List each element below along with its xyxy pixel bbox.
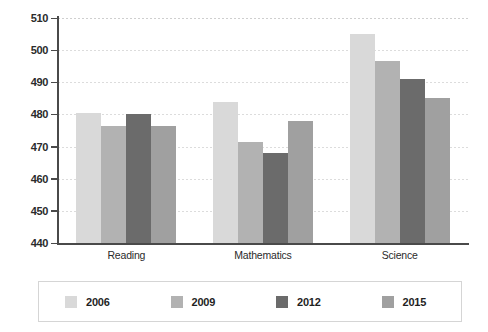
chart-root: 440450460470480490500510 ReadingMathemat…: [0, 0, 488, 332]
y-axis-tick-label: 460: [8, 173, 48, 185]
y-axis-tick-label: 480: [8, 108, 48, 120]
y-axis-tick-label: 470: [8, 141, 48, 153]
plot-area: [58, 18, 468, 243]
bar-mathematics-2015[interactable]: [288, 121, 313, 243]
x-axis-line: [57, 243, 469, 245]
y-axis-tick-label: 450: [8, 205, 48, 217]
bar-science-2015[interactable]: [425, 98, 450, 243]
legend-swatch-icon: [276, 296, 288, 308]
y-axis-tick-label: 510: [8, 12, 48, 24]
legend-swatch-icon: [65, 296, 77, 308]
gridline: [58, 50, 468, 51]
bar-reading-2006[interactable]: [76, 113, 101, 243]
legend-swatch-icon: [171, 296, 183, 308]
legend-item-2012[interactable]: 2012: [250, 296, 356, 308]
y-axis-tick-label: 440: [8, 237, 48, 249]
bar-science-2009[interactable]: [375, 61, 400, 243]
bar-mathematics-2012[interactable]: [263, 153, 288, 243]
y-axis-tick-label: 490: [8, 76, 48, 88]
legend-item-2009[interactable]: 2009: [145, 296, 251, 308]
y-axis-line: [57, 16, 59, 245]
legend-label: 2009: [192, 296, 216, 308]
legend-item-2015[interactable]: 2015: [356, 296, 462, 308]
legend-swatch-icon: [382, 296, 394, 308]
y-axis-tick-label: 500: [8, 44, 48, 56]
bar-mathematics-2006[interactable]: [213, 102, 238, 243]
bar-science-2012[interactable]: [400, 79, 425, 243]
bar-mathematics-2009[interactable]: [238, 142, 263, 243]
chart-legend: 2006200920122015: [38, 281, 462, 322]
category-label-science: Science: [331, 249, 468, 261]
bar-reading-2009[interactable]: [101, 126, 126, 243]
category-label-mathematics: Mathematics: [195, 249, 332, 261]
legend-label: 2015: [403, 296, 427, 308]
legend-label: 2012: [297, 296, 321, 308]
gridline: [58, 18, 468, 19]
bar-science-2006[interactable]: [350, 34, 375, 243]
legend-label: 2006: [86, 296, 110, 308]
bar-reading-2012[interactable]: [126, 114, 151, 243]
legend-item-2006[interactable]: 2006: [39, 296, 145, 308]
bar-reading-2015[interactable]: [151, 126, 176, 243]
category-label-reading: Reading: [58, 249, 195, 261]
